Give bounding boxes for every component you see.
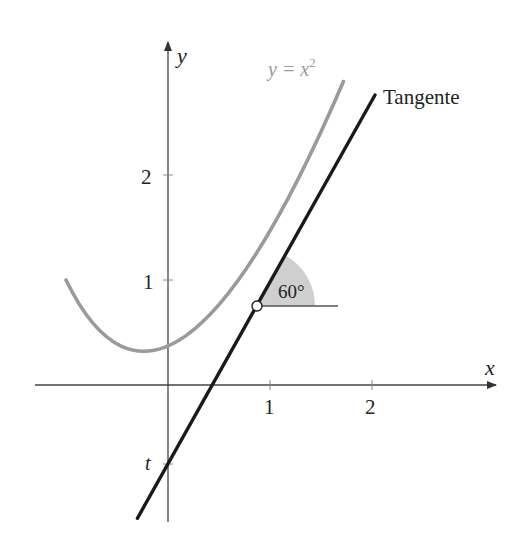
- y-tick-label-1: 1: [143, 270, 154, 294]
- curve-label-exponent: 2: [309, 55, 316, 70]
- x-tick-label-1: 1: [264, 395, 275, 419]
- tangency-point: [252, 301, 262, 311]
- y-tick-label-2: 2: [141, 165, 152, 189]
- curve-label: y = x2: [266, 55, 316, 81]
- y-axis-label: y: [175, 43, 187, 68]
- angle-label: 60°: [278, 281, 305, 302]
- intercept-label-t: t: [145, 452, 151, 474]
- x-tick-label-2: 2: [365, 395, 376, 419]
- curve-label-text: y = x: [266, 58, 309, 81]
- svg-text:y = x2: y = x2: [266, 55, 316, 81]
- tangent-label: Tangente: [383, 85, 460, 109]
- parabola-curve: [66, 82, 343, 352]
- x-axis-label: x: [484, 355, 495, 380]
- tangent-diagram: y x 2 1 1 2 t y = x2 Tangente 60°: [0, 0, 531, 543]
